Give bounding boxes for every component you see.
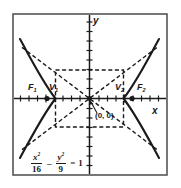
y-term-numerator: y2 (56, 152, 67, 164)
focus-left-subscript: 1 (34, 87, 37, 93)
focus-left-point (44, 96, 49, 101)
focus-right-label: F2 (137, 83, 146, 92)
x-term-numerator: x2 (31, 152, 42, 164)
x-axis-label: x (152, 106, 158, 116)
y-term-fraction: y2 9 (56, 152, 67, 174)
hyperbola-equation: x2 16 – y2 9 = 1 (29, 152, 83, 174)
equation-right-hand-side: 1 (78, 158, 83, 168)
vertex-left-subscript: 1 (55, 87, 58, 93)
y-term-denominator: 9 (57, 164, 66, 174)
x-term-denominator: 16 (30, 164, 43, 174)
equals-operator: = (70, 158, 75, 168)
vertex-right-label: V2 (115, 83, 124, 92)
focus-left-label: F1 (28, 83, 37, 92)
x-term-fraction: x2 16 (30, 152, 43, 174)
y-axis-label: y (93, 16, 99, 26)
origin-point (87, 96, 92, 101)
focus-right-letter: F (137, 82, 143, 92)
hyperbola-plot (0, 0, 181, 188)
origin-label: (0, 0) (95, 112, 114, 120)
x-exponent: 2 (37, 151, 40, 157)
hyperbola-figure: y x F1 V1 V2 F2 (0, 0) x2 16 – y2 9 = 1 (0, 0, 181, 188)
minus-operator: – (47, 158, 52, 168)
vertex-left-label: V1 (49, 83, 58, 92)
focus-right-subscript: 2 (143, 87, 146, 93)
focus-left-letter: F (28, 82, 34, 92)
focus-right-point (129, 96, 134, 101)
vertex-right-subscript: 2 (121, 87, 124, 93)
y-exponent: 2 (62, 151, 65, 157)
